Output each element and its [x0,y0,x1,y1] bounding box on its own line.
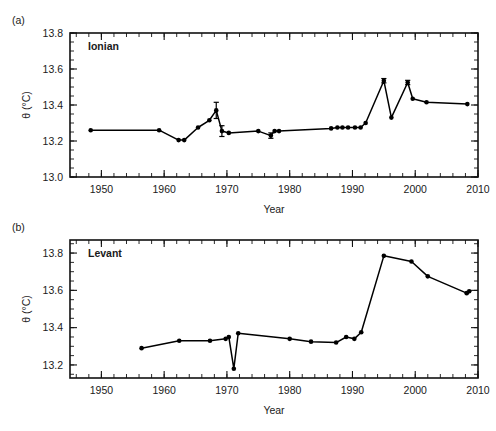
x-tick-label: 1970 [215,384,239,396]
data-point [157,128,162,133]
x-tick-label: 1950 [90,384,114,396]
data-point [410,96,415,101]
y-tick-label: 13.6 [43,63,64,75]
data-point [358,125,363,130]
data-point [334,340,339,345]
data-point [227,335,232,340]
panel-levant: (b)195019601970198019902000201013.213.41… [0,215,496,431]
plot-frame [70,33,478,177]
y-tick-label: 13.2 [43,359,64,371]
x-tick-label: 1950 [90,183,114,195]
x-axis-title: Year [263,203,285,215]
y-tick-label: 13.8 [43,27,64,39]
data-point [382,78,387,83]
x-tick-label: 2000 [404,183,428,195]
data-point [287,337,292,342]
data-point [363,121,368,126]
panel-ionian: (a)195019601970198019902000201013.013.21… [0,0,496,215]
x-tick-label: 1970 [215,183,239,195]
series-label: Levant [88,247,122,259]
minor-ticks [70,240,478,378]
data-point [359,330,364,335]
panel-letter: (b) [12,221,25,233]
x-tick-label: 2010 [466,183,490,195]
chart-levant: (b)195019601970198019902000201013.213.41… [0,215,496,431]
data-point [214,108,219,113]
data-point [335,125,340,130]
data-point [405,80,410,85]
x-tick-label: 2010 [466,384,490,396]
data-point [177,338,182,343]
y-axis-title: θ (°C) [20,295,32,323]
y-tick-label: 13.4 [43,321,64,333]
data-point [340,125,345,130]
x-tick-label: 1960 [152,183,176,195]
data-point [346,125,351,130]
data-point [208,338,213,343]
x-tick-label: 1980 [278,384,302,396]
data-point [425,274,430,279]
data-point [344,335,349,340]
data-point [465,102,470,107]
data-point [353,125,358,130]
data-point [236,331,241,336]
x-tick-label: 1990 [341,183,365,195]
major-ticks: 195019601970198019902000201013.213.413.6… [43,240,490,396]
data-point [88,128,93,133]
x-tick-label: 1990 [341,384,365,396]
x-axis-title: Year [263,404,285,416]
data-point [409,259,414,264]
data-points [88,78,469,142]
y-tick-label: 13.8 [43,247,64,259]
data-point [467,289,472,294]
chart-ionian: (a)195019601970198019902000201013.013.21… [0,0,496,215]
y-tick-label: 13.2 [43,135,64,147]
data-line [142,256,470,369]
data-point [272,129,277,134]
data-point [309,339,314,344]
data-point [196,125,201,130]
figure-container: (a)195019601970198019902000201013.013.21… [0,0,496,431]
series-label: Ionian [88,40,119,52]
data-point [352,337,357,342]
x-tick-label: 1960 [152,384,176,396]
y-tick-label: 13.4 [43,99,64,111]
x-tick-label: 2000 [404,384,428,396]
data-point [182,138,187,143]
data-point [227,131,232,136]
data-point [277,129,282,134]
data-point [269,133,274,138]
minor-ticks [70,33,478,177]
x-tick-label: 1980 [278,183,302,195]
y-tick-label: 13.0 [43,171,64,183]
data-point [256,129,261,134]
y-axis-title: θ (°C) [20,91,32,119]
data-point [232,366,237,371]
data-point [220,129,225,134]
data-point [329,126,334,131]
data-point [176,138,181,143]
plot-frame [70,240,478,378]
panel-letter: (a) [12,14,25,26]
y-tick-label: 13.6 [43,284,64,296]
data-point [139,346,144,351]
data-point [382,254,387,259]
data-point [424,100,429,105]
panel-a-canvas: (a)195019601970198019902000201013.013.21… [0,0,496,215]
panel-b-canvas: (b)195019601970198019902000201013.213.41… [0,215,496,431]
major-ticks: 195019601970198019902000201013.013.213.4… [43,27,490,195]
data-point [389,115,394,120]
data-point [207,118,212,123]
